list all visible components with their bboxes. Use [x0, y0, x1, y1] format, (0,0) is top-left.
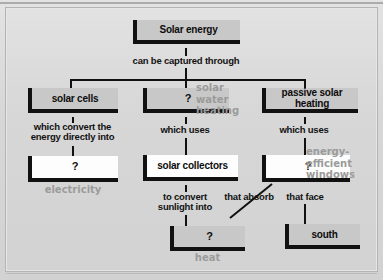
node-solar-cells-label: solar cells: [52, 93, 99, 104]
link-label-which-convert: which convert the energy directly into: [10, 122, 135, 142]
connector-collectors-stem-b: [185, 215, 187, 226]
node-solar-cells: solar cells: [28, 88, 118, 113]
node-solar-collectors: solar collectors: [143, 155, 238, 181]
node-passive-solar-heating-label: passive solar heating: [269, 87, 355, 109]
connector-middle-stem-b: [185, 138, 187, 155]
node-solar-collectors-label: solar collectors: [157, 160, 228, 171]
link-label-which-uses-middle: which uses: [145, 125, 225, 135]
connector-middle-stem-a: [185, 117, 187, 124]
connector-electricity-stem: [72, 146, 74, 156]
connector-that-face-stem: [304, 204, 306, 224]
node-south: south: [285, 224, 360, 249]
diagram-canvas: Solar energy can be captured through sol…: [0, 0, 383, 280]
link-label-can-be-captured-through: can be captured through: [110, 56, 262, 66]
connector-right-stem-a: [304, 117, 306, 124]
answer-windows: energy- efficient windows: [306, 146, 382, 181]
answer-middle-branch: solar water heating: [196, 82, 266, 117]
answer-electricity: electricity: [23, 184, 123, 196]
bottom-rule: [6, 273, 377, 274]
node-question-middle-branch-label: ?: [185, 93, 192, 104]
node-passive-solar-heating: passive solar heating: [262, 88, 358, 113]
node-solar-energy: Solar energy: [133, 20, 240, 44]
node-question-electricity-label: ?: [72, 161, 79, 172]
node-question-heat: ?: [170, 226, 245, 251]
link-label-which-uses-right: which uses: [264, 125, 344, 135]
node-question-heat-label: ?: [206, 231, 213, 242]
node-solar-energy-label: Solar energy: [159, 24, 217, 35]
connector-branch-bus: [70, 79, 306, 81]
answer-heat: heat: [165, 252, 250, 264]
node-question-electricity: ?: [28, 156, 118, 182]
node-south-label: south: [311, 229, 337, 240]
top-rule: [0, 2, 383, 4]
